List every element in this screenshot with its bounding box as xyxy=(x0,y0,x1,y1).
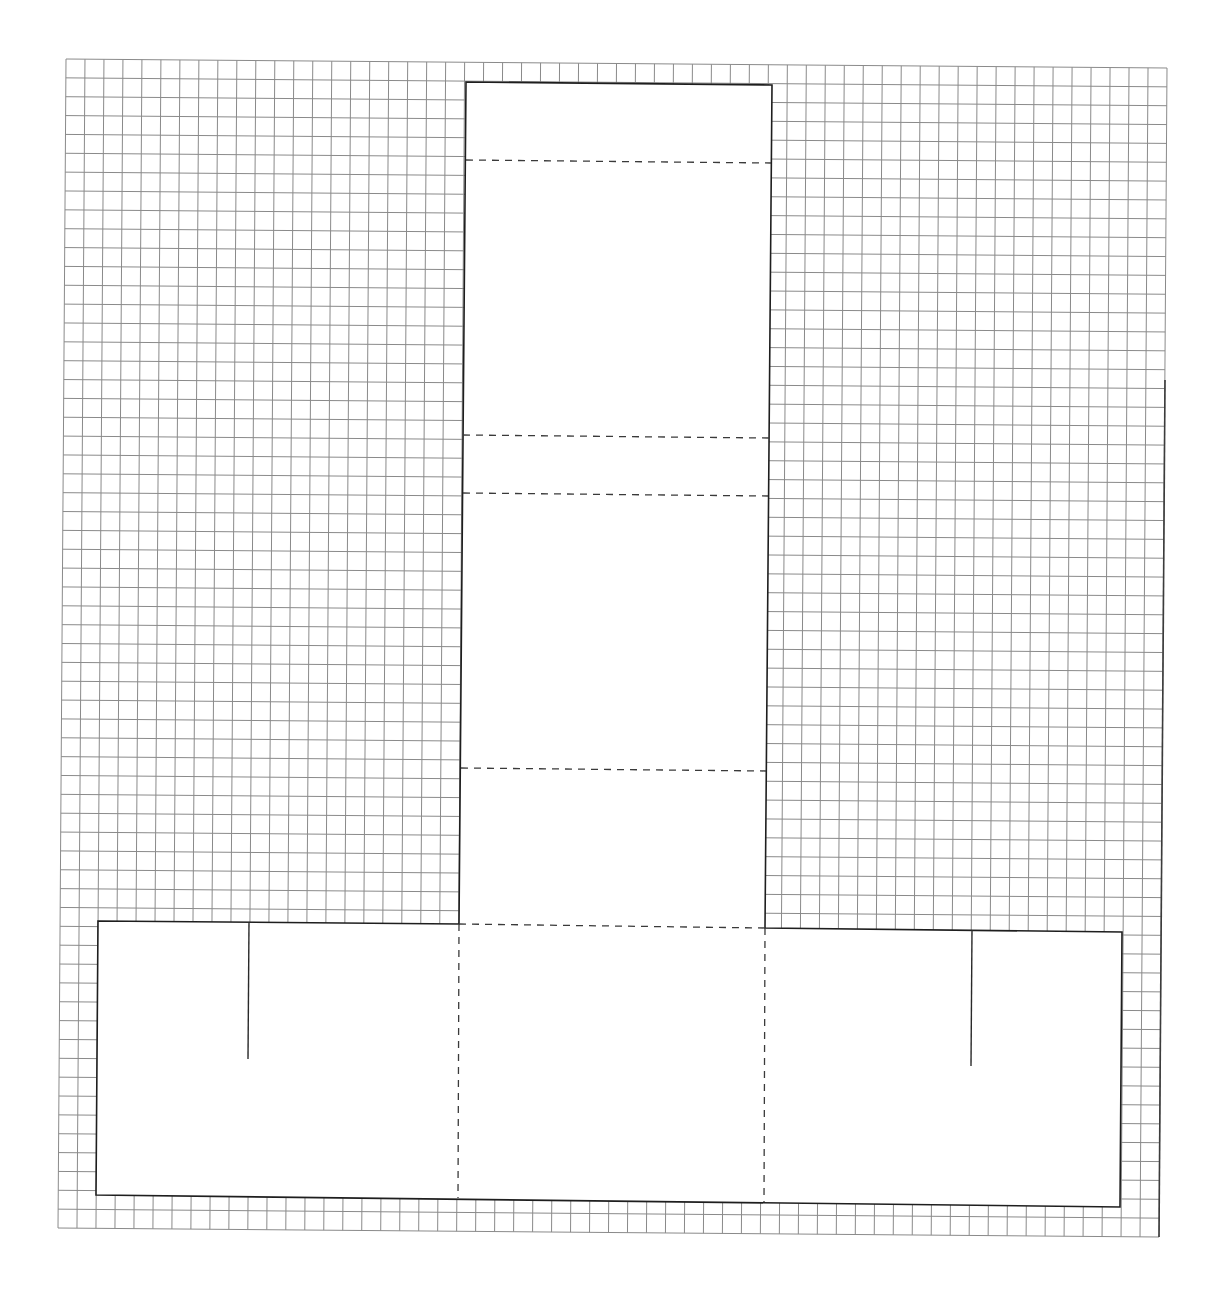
net-outline xyxy=(96,82,1122,1207)
box-net xyxy=(96,82,1122,1207)
cut-slit xyxy=(971,930,972,1066)
diagram-canvas xyxy=(0,0,1219,1304)
cut-slit xyxy=(248,922,249,1059)
grid-right-border xyxy=(1159,380,1165,1237)
